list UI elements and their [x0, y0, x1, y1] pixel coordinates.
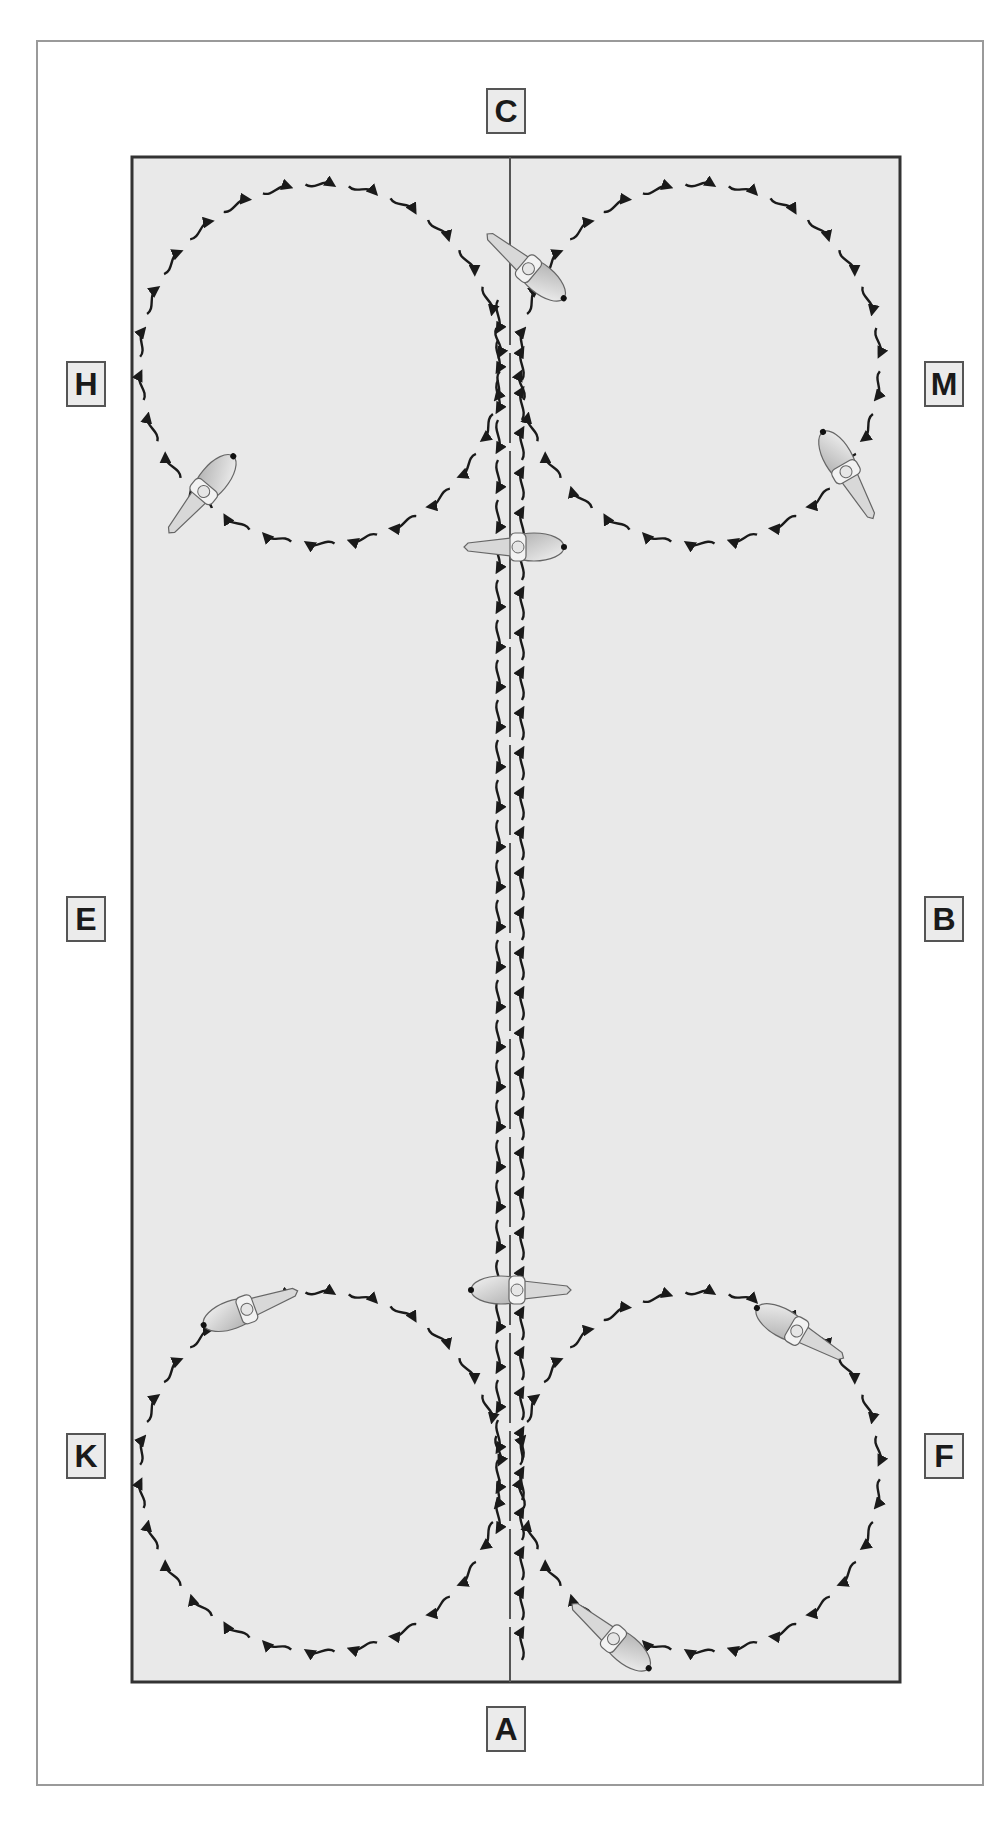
- marker-e: E: [66, 896, 106, 942]
- marker-k: K: [66, 1433, 106, 1479]
- arena-rectangle: [132, 157, 900, 1682]
- arena-diagram: [0, 0, 1008, 1822]
- marker-m: M: [924, 361, 964, 407]
- marker-c: C: [486, 88, 526, 134]
- marker-a: A: [486, 1706, 526, 1752]
- marker-h: H: [66, 361, 106, 407]
- marker-f: F: [924, 1433, 964, 1479]
- marker-b: B: [924, 896, 964, 942]
